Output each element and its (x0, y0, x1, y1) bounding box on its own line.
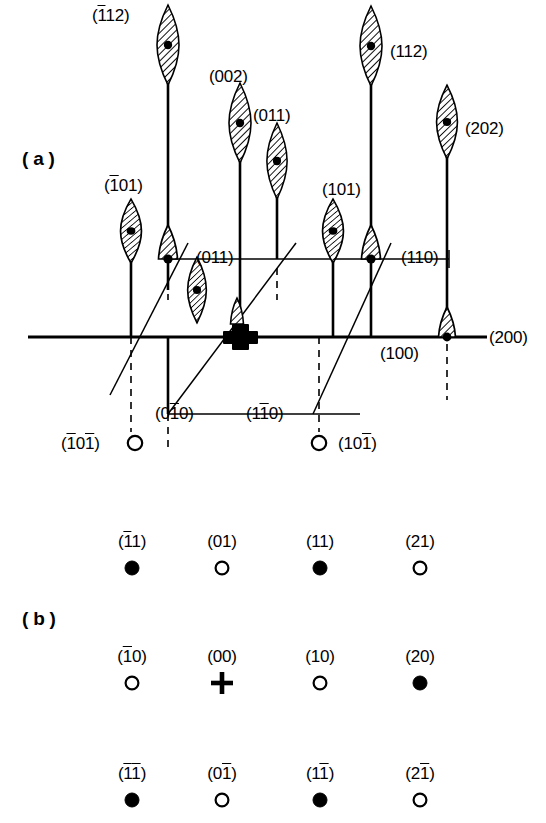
streak-011-node (159, 225, 178, 264)
reflection-label-011m: (011) (196, 248, 233, 268)
panel-b-spot-filled (413, 676, 427, 690)
reflection-label-100: (100) (380, 344, 419, 364)
streak-112 (360, 6, 382, 86)
origin-cross (223, 324, 258, 350)
panel-b-artwork (125, 561, 427, 807)
panel-b-spot-open (216, 794, 229, 807)
streak-n112 (157, 5, 179, 85)
panel-b-label-2: (11) (294, 532, 346, 552)
reflection-label-002: (002) (209, 67, 248, 87)
reflection-label-1m10: (110) (246, 404, 283, 424)
streak-011-top (267, 123, 287, 199)
panel-b-spot-open (216, 562, 229, 575)
reflection-label-101: (101) (322, 180, 361, 200)
open-circle-n10n1 (128, 436, 142, 450)
projected-spot-label-10n1: (101) (338, 434, 377, 454)
oblique-line-1 (110, 243, 188, 395)
diffraction-figure: ( a )( b ) (112)(002)(011)(112)(202)(101… (0, 0, 546, 823)
panel-b-label-1: (01) (196, 532, 248, 552)
panel-b-spot-filled (125, 561, 139, 575)
panel-b-label-11: (21) (394, 764, 446, 784)
panel-b-spot-filled (125, 793, 139, 807)
projected-spot-label-n101n: (101) (61, 434, 100, 454)
panel-b-label-8: (11) (106, 764, 158, 784)
panel-b-label-6: (10) (294, 647, 346, 667)
panel-b-label-0: (11) (106, 532, 158, 552)
panel-b-direct-beam-cross (211, 672, 233, 694)
streak-n101 (121, 199, 142, 263)
reflection-label-110: (110) (401, 248, 438, 268)
panel-b-spot-open (126, 677, 139, 690)
streak-origin-node (231, 298, 244, 324)
panel-b-label-10: (11) (294, 764, 346, 784)
reflection-label-n101: (101) (104, 176, 143, 196)
panel-b-label-9: (01) (196, 764, 248, 784)
panel-b-spot-filled (313, 793, 327, 807)
panel-b-spot-open (314, 677, 327, 690)
streak-110-node (362, 225, 381, 264)
panel-label-b: ( b ) (22, 608, 56, 630)
reflection-label-202: (202) (465, 119, 504, 139)
reflection-label-n112: (112) (92, 6, 129, 26)
panel-a-artwork (28, 5, 487, 452)
streak-202 (437, 85, 458, 159)
panel-b-spot-filled (313, 561, 327, 575)
panel-label-a: ( a ) (22, 148, 55, 170)
reflection-label-200: (200) (489, 328, 528, 348)
panel-b-label-3: (21) (394, 532, 446, 552)
oblique-line-3 (313, 243, 391, 414)
panel-b-label-5: (00) (196, 647, 248, 667)
panel-b-spot-open (414, 562, 427, 575)
panel-b-label-7: (20) (394, 647, 446, 667)
reflection-label-011t: (011) (253, 106, 290, 126)
panel-b-label-4: (10) (106, 647, 158, 667)
reflection-label-010b: (010) (155, 404, 194, 424)
streak-200-node (439, 307, 456, 341)
panel-b-spot-open (414, 794, 427, 807)
streak-002 (229, 83, 251, 163)
open-circle-10n1 (312, 436, 326, 450)
reflection-label-112: (112) (390, 42, 427, 62)
streak-101 (323, 199, 344, 263)
